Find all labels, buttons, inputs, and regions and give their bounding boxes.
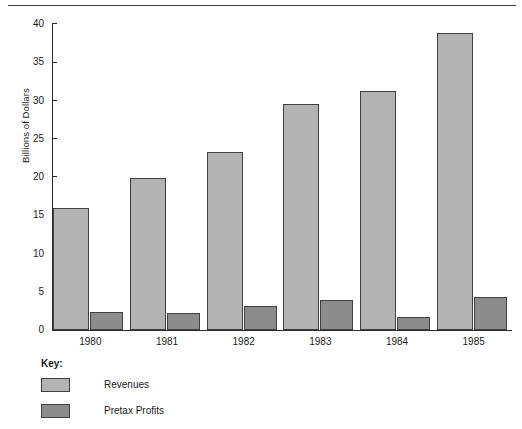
legend-title: Key: <box>41 358 63 369</box>
x-axis-tick-label-1982: 1982 <box>214 336 274 347</box>
y-axis-tick-label: 20 <box>20 172 44 182</box>
legend-label: Revenues <box>104 379 149 391</box>
bar-revenues-1985 <box>437 33 473 330</box>
y-axis-tick-label: 30 <box>20 96 44 106</box>
y-axis-tick <box>52 176 57 177</box>
bar-pretax-profits-1984 <box>397 317 430 330</box>
bar-revenues-1984 <box>360 91 396 330</box>
bar-pretax-profits-1982 <box>244 306 277 330</box>
x-axis-tick-label-1985: 1985 <box>444 336 504 347</box>
legend-swatch-pretax-profits <box>41 404 70 418</box>
bar-pretax-profits-1981 <box>167 313 200 330</box>
bar-pretax-profits-1985 <box>474 297 507 330</box>
bar-pretax-profits-1980 <box>90 312 123 330</box>
y-axis-tick-label: 25 <box>20 134 44 144</box>
y-axis-tick-label: 0 <box>20 325 44 335</box>
x-axis-tick-label-1981: 1981 <box>137 336 197 347</box>
y-axis-tick-label: 40 <box>20 19 44 29</box>
y-axis-tick-label: 10 <box>20 249 44 259</box>
bar-revenues-1983 <box>283 104 319 330</box>
x-axis-tick-label-1983: 1983 <box>290 336 350 347</box>
bar-pretax-profits-1983 <box>320 300 353 330</box>
bar-chart-figure: Billions of Dollars 05101520253035401980… <box>0 0 522 429</box>
y-axis-tick <box>52 62 57 63</box>
plot-area: 0510152025303540198019811982198319841985 <box>0 0 522 429</box>
bar-revenues-1982 <box>207 152 243 330</box>
y-axis-tick <box>52 23 57 24</box>
y-axis-tick-label: 15 <box>20 210 44 220</box>
y-axis-tick-label: 35 <box>20 57 44 67</box>
bar-revenues-1981 <box>130 178 166 330</box>
x-axis-tick-label-1980: 1980 <box>60 336 120 347</box>
x-axis-line <box>52 330 512 331</box>
y-axis-tick <box>52 100 57 101</box>
bar-revenues-1980 <box>53 208 89 330</box>
y-axis-tick-label: 5 <box>20 287 44 297</box>
legend-label: Pretax Profits <box>104 405 164 417</box>
legend-swatch-revenues <box>41 378 70 392</box>
x-axis-tick-label-1984: 1984 <box>367 336 427 347</box>
y-axis-tick <box>52 138 57 139</box>
